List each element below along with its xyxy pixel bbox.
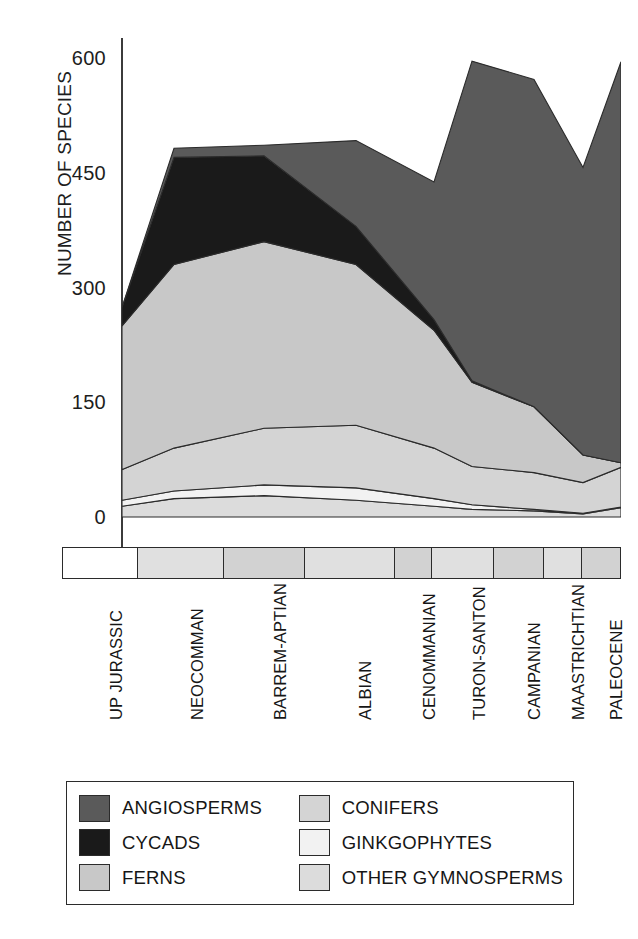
area-svg — [122, 10, 621, 550]
period-cell-neocomman[interactable]: NEOCOMMAN — [138, 548, 225, 578]
period-axis-bar: UP JURASSICNEOCOMMANBARREM-APTIANALBIANC… — [62, 547, 621, 579]
y-tick-label: 600 — [72, 48, 106, 68]
period-label: MAASTRICHTIAN — [569, 688, 588, 720]
period-cell-up-jurassic[interactable]: UP JURASSIC — [63, 548, 138, 578]
period-cell-campanian[interactable]: CAMPANIAN — [494, 548, 544, 578]
period-cell-cenommanian[interactable]: CENOMMANIAN — [395, 548, 432, 578]
period-cell-turon-santon[interactable]: TURON-SANTON — [432, 548, 495, 578]
period-cell-albian[interactable]: ALBIAN — [305, 548, 395, 578]
chart-figure: 0150300450600 NUMBER OF SPECIES UP JURAS… — [0, 0, 638, 939]
legend-item[interactable]: FERNS — [79, 860, 293, 895]
y-axis-title: NUMBER OF SPECIES — [54, 71, 76, 276]
period-label: TURON-SANTON — [469, 688, 488, 720]
period-cell-barrem-aptian[interactable]: BARREM-APTIAN — [224, 548, 305, 578]
period-label: CENOMMANIAN — [419, 688, 438, 720]
period-cell-maastrichtian[interactable]: MAASTRICHTIAN — [544, 548, 582, 578]
legend-item[interactable]: CONIFERS — [299, 791, 563, 826]
legend-label: FERNS — [122, 867, 186, 889]
period-cell-paleocene[interactable]: PALEOCENE — [582, 548, 620, 578]
legend-label: GINKGOPHYTES — [342, 832, 492, 854]
legend-swatch — [299, 829, 330, 856]
period-label: BARREM-APTIAN — [271, 688, 290, 720]
legend-swatch — [79, 795, 110, 822]
y-tick-label: 300 — [72, 278, 106, 298]
legend-label: OTHER GYMNOSPERMS — [342, 867, 563, 889]
period-label: NEOCOMMAN — [187, 688, 206, 720]
period-label: UP JURASSIC — [107, 688, 126, 720]
legend-item[interactable]: ANGIOSPERMS — [79, 791, 293, 826]
legend-swatch — [79, 829, 110, 856]
legend-swatch — [299, 864, 330, 891]
legend-swatch — [79, 864, 110, 891]
period-label: CAMPANIAN — [525, 688, 544, 720]
y-tick-label: 150 — [72, 392, 106, 412]
legend-label: ANGIOSPERMS — [122, 797, 262, 819]
legend-item[interactable]: GINKGOPHYTES — [299, 826, 563, 861]
legend-item[interactable]: CYCADS — [79, 826, 293, 861]
legend-swatch — [299, 795, 330, 822]
chart-legend: ANGIOSPERMSCONIFERSCYCADSGINKGOPHYTESFER… — [66, 781, 574, 905]
y-tick-label: 0 — [95, 507, 106, 527]
period-label: PALEOCENE — [607, 688, 626, 720]
stacked-area-plot — [122, 10, 621, 550]
y-tick-label: 450 — [72, 163, 106, 183]
period-label: ALBIAN — [356, 688, 375, 720]
legend-label: CONIFERS — [342, 797, 439, 819]
legend-item[interactable]: OTHER GYMNOSPERMS — [299, 860, 563, 895]
legend-label: CYCADS — [122, 832, 200, 854]
